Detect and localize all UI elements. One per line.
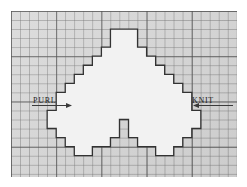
knit-arrow-left-icon: [188, 101, 234, 110]
leaf-motif: [11, 11, 237, 177]
purl-arrow-right-icon: [31, 101, 73, 110]
knitting-chart-figure: PURL KNIT: [0, 0, 247, 187]
leaf-motif-outline: [47, 29, 201, 156]
